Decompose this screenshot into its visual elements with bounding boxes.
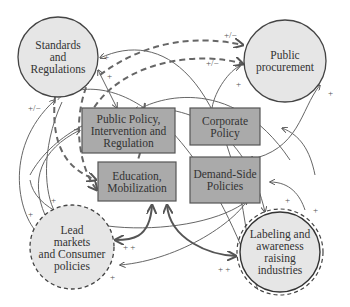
sign-label: + (328, 89, 333, 98)
sign-label: + (104, 53, 109, 62)
sign-label: + (110, 273, 115, 282)
node-public-policy (82, 108, 175, 153)
node-corporate (190, 108, 260, 145)
sign-label: + (51, 196, 56, 205)
sign-label: + (236, 80, 241, 89)
sign-label: + (313, 206, 318, 215)
node-procurement (244, 20, 326, 102)
node-lead-markets (30, 205, 114, 289)
sign-label: +/− (206, 59, 219, 68)
node-labeling (237, 209, 323, 295)
feedback-diagram (0, 0, 350, 307)
sign-label: + (285, 196, 290, 205)
sign-label: + + (123, 243, 135, 252)
node-demand (190, 157, 260, 203)
sign-label: + + (218, 265, 230, 274)
sign-label: + (107, 72, 112, 81)
node-education (98, 162, 176, 201)
sign-label: +/− (224, 31, 237, 40)
node-standards (18, 17, 98, 97)
sign-label: +/− (28, 104, 41, 113)
sign-label: + (28, 210, 33, 219)
